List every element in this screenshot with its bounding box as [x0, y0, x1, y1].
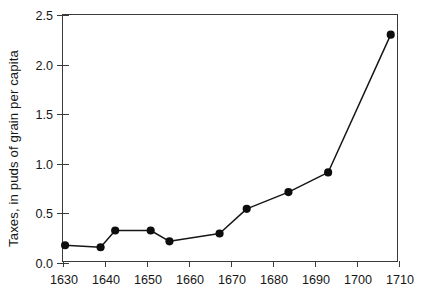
x-tick-label: 1660: [176, 273, 204, 287]
data-point: [243, 205, 251, 213]
x-tick: 1650: [147, 261, 148, 267]
x-tick: 1630: [63, 261, 64, 267]
plot-area: 0.00.51.01.52.02.5 163016401650166016701…: [62, 14, 398, 262]
x-tick: 1700: [357, 261, 358, 267]
x-tick-label: 1690: [302, 273, 330, 287]
y-tick-label: 2.5: [35, 9, 53, 23]
y-tick-label: 1.0: [35, 158, 53, 172]
y-axis-title: Taxes, in puds of grain per capita: [0, 0, 30, 297]
data-point: [165, 237, 173, 245]
x-tick-label: 1640: [92, 273, 120, 287]
x-tick-label: 1670: [218, 273, 246, 287]
data-point: [147, 226, 155, 234]
x-tick-label: 1630: [50, 273, 78, 287]
x-tick: 1660: [189, 261, 190, 267]
chart-figure: Taxes, in puds of grain per capita 0.00.…: [0, 0, 424, 297]
data-point: [61, 241, 69, 249]
series-markers: [61, 31, 395, 252]
x-tick: 1690: [315, 261, 316, 267]
x-tick-label: 1680: [260, 273, 288, 287]
x-tick-label: 1710: [386, 273, 414, 287]
y-tick-label: 1.5: [35, 108, 53, 122]
series-line: [65, 35, 391, 248]
y-axis-title-text: Taxes, in puds of grain per capita: [6, 50, 24, 247]
x-tick: 1670: [231, 261, 232, 267]
y-tick-label: 0.5: [35, 207, 53, 221]
data-point: [96, 243, 104, 251]
data-point: [387, 31, 395, 39]
y-tick-label: 2.0: [35, 59, 53, 73]
x-tick: 1710: [399, 261, 400, 267]
data-point: [215, 229, 223, 237]
data-point: [284, 188, 292, 196]
data-point: [111, 226, 119, 234]
x-tick: 1640: [105, 261, 106, 267]
x-tick: 1680: [273, 261, 274, 267]
series-layer: [63, 15, 397, 261]
x-tick-label: 1650: [134, 273, 162, 287]
x-tick-label: 1700: [344, 273, 372, 287]
y-tick-label: 0.0: [35, 257, 53, 271]
data-point: [324, 168, 332, 176]
